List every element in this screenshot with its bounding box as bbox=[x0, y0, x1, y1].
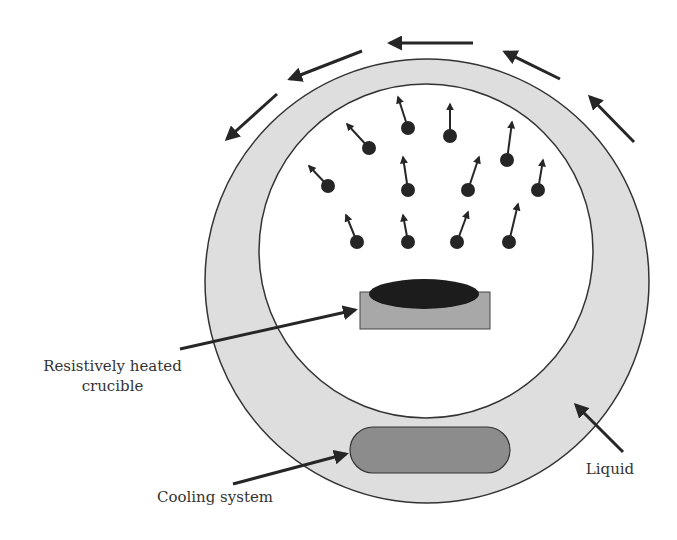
crucible-label: Resistively heated crucible bbox=[20, 356, 205, 396]
evaporation-diagram bbox=[0, 0, 677, 540]
crucible-label-line1: Resistively heated bbox=[20, 356, 205, 376]
crucible bbox=[360, 279, 490, 329]
cooling-system bbox=[350, 427, 510, 473]
cooling-system-label: Cooling system bbox=[140, 487, 290, 507]
liquid-label: Liquid bbox=[580, 459, 640, 479]
crucible-label-line2: crucible bbox=[20, 376, 205, 396]
